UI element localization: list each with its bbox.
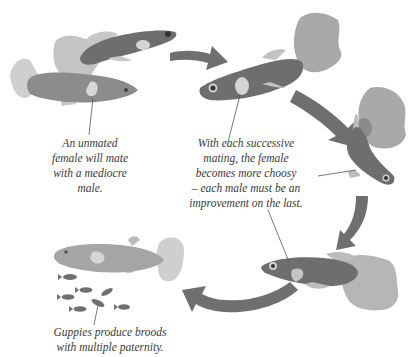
arrow-3-down-left bbox=[336, 196, 368, 250]
male-bottom-right-fish bbox=[261, 252, 398, 310]
caption-line: – each male must be an bbox=[176, 181, 316, 196]
fry-4 bbox=[100, 287, 114, 298]
caption-line: An unmated bbox=[40, 136, 140, 151]
fry-1 bbox=[58, 274, 77, 280]
leader-line-choosy-bottom bbox=[268, 210, 289, 262]
caption-line: becomes more choosy bbox=[176, 166, 316, 181]
caption-line: with multiple paternity. bbox=[40, 340, 180, 355]
caption-line: With each successive bbox=[176, 136, 316, 151]
caption-broods: Guppies produce broods with multiple pat… bbox=[40, 325, 180, 355]
caption-choosy: With each successive mating, the female … bbox=[176, 136, 316, 211]
fry-3 bbox=[57, 294, 75, 300]
arrow-1-right bbox=[170, 46, 228, 70]
fry-6 bbox=[69, 306, 87, 312]
caption-line: male. bbox=[40, 181, 140, 196]
fry-7 bbox=[114, 304, 130, 310]
caption-line: female will mate bbox=[40, 151, 140, 166]
caption-unmated: An unmated female will mate with a medio… bbox=[40, 136, 140, 196]
leader-line-unmated bbox=[89, 98, 93, 135]
caption-line: mating, the female bbox=[176, 151, 316, 166]
fry-2 bbox=[75, 287, 93, 293]
leader-line-choosy-top bbox=[228, 95, 240, 142]
caption-line: with a mediocre bbox=[40, 166, 140, 181]
fry-group bbox=[57, 274, 130, 312]
caption-line: improvement on the last. bbox=[176, 196, 316, 211]
arrow-4-left bbox=[182, 282, 298, 312]
caption-line: Guppies produce broods bbox=[40, 325, 180, 340]
leader-line-broods bbox=[94, 305, 98, 325]
